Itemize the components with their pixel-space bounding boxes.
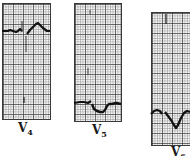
- ecg-trace-v6: [151, 14, 190, 128]
- ecg-trace-v5: [74, 10, 121, 112]
- lead-number: 5: [101, 129, 107, 139]
- lead-letter: V: [171, 145, 180, 156]
- ecg-trace-v4: [2, 21, 50, 103]
- lead-label-v4: V4: [18, 122, 33, 136]
- lead-number: 6: [180, 151, 186, 156]
- lead-number: 4: [27, 127, 33, 137]
- lead-label-v6: V6: [171, 146, 186, 156]
- lead-letter: V: [18, 121, 27, 135]
- lead-label-v5: V5: [92, 124, 107, 138]
- lead-letter: V: [92, 123, 101, 137]
